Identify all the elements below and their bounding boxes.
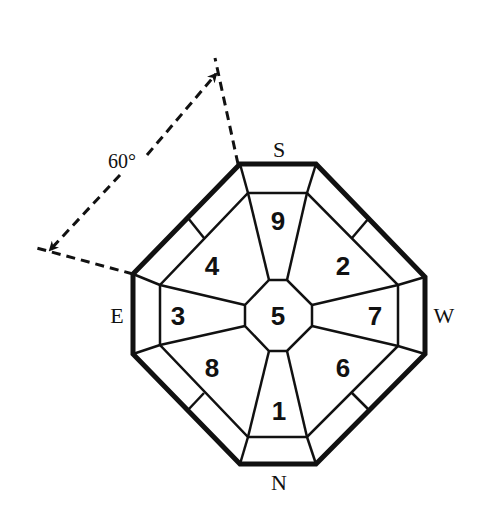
angle-label: 60° xyxy=(108,150,136,172)
angle-arc-lower xyxy=(50,175,120,250)
sector-bottom-left-number: 8 xyxy=(205,353,219,383)
sector-top-left-number: 4 xyxy=(205,251,220,281)
octagon-diagram: 60° 5 9 2 7 6 1 8 3 4 xyxy=(0,0,486,521)
ring-tick-bottom-right xyxy=(352,393,369,410)
direction-label-east: E xyxy=(110,303,123,328)
ring-tick-top-right xyxy=(352,218,369,238)
angle-arc-upper xyxy=(147,74,216,155)
sector-top-right-number: 2 xyxy=(336,251,350,281)
sector-bottom-right-number: 6 xyxy=(336,353,350,383)
ring-tick-bottom-left xyxy=(188,393,204,410)
direction-label-north: N xyxy=(271,470,287,495)
direction-label-west: W xyxy=(434,303,455,328)
ring-tick-top-left xyxy=(188,218,204,238)
angle-ray-lower xyxy=(33,247,133,274)
direction-label-south: S xyxy=(273,137,285,162)
sector-left-number: 3 xyxy=(171,301,185,331)
sector-right-number: 7 xyxy=(368,301,382,331)
sector-bottom-number: 1 xyxy=(272,396,286,426)
sector-center-number: 5 xyxy=(271,301,285,331)
angle-ray-upper xyxy=(215,58,238,164)
sector-top-number: 9 xyxy=(271,206,285,236)
